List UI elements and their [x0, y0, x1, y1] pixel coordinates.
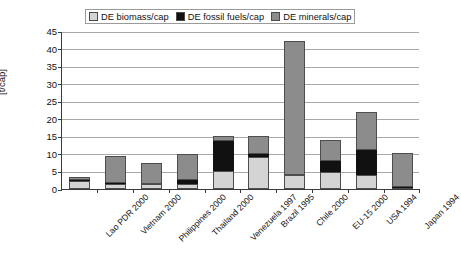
bar-segment-minerals: [213, 136, 234, 141]
y-axis-tick-labels: 051015202530354045: [32, 32, 57, 190]
bar-segment-fossil: [248, 154, 269, 157]
bar-slot: [384, 32, 420, 189]
bar-usa-1994[interactable]: [356, 112, 377, 189]
legend-swatch-minerals: [271, 12, 280, 21]
y-axis-title: [t/cap]: [0, 69, 7, 95]
bar-segment-biomass: [248, 157, 269, 189]
y-axis-tick-label: 5: [52, 167, 57, 177]
bar-japan-1994[interactable]: [392, 153, 413, 189]
y-axis-tick-label: 25: [46, 97, 57, 107]
y-axis-tick-label: 10: [46, 150, 57, 160]
bar-segment-biomass: [177, 184, 198, 189]
bar-segment-minerals: [320, 140, 341, 161]
bar-segment-minerals: [356, 112, 377, 151]
legend-label-fossil-fuels: DE fossil fuels/cap: [188, 12, 264, 22]
y-axis-title-wrap: [t/cap]: [0, 0, 32, 261]
bar-vietnam-2000[interactable]: [105, 156, 126, 189]
bar-segment-minerals: [105, 156, 126, 183]
bar-segment-fossil: [177, 180, 198, 184]
bar-chile-2000[interactable]: [284, 41, 305, 189]
plot-area: [61, 32, 419, 190]
bar-segment-biomass: [213, 171, 234, 189]
bar-philippines-2000[interactable]: [141, 163, 162, 189]
y-axis-tick-label: 45: [46, 27, 57, 37]
y-axis-tick: [58, 190, 62, 191]
legend-item-biomass: DE biomass/cap: [89, 12, 169, 22]
x-axis-tick-label: EU-15 2000: [351, 192, 391, 232]
bar-segment-biomass: [284, 175, 305, 189]
bar-slot: [205, 32, 241, 189]
bar-segment-biomass: [69, 181, 90, 189]
bar-slot: [169, 32, 205, 189]
bar-slot: [313, 32, 349, 189]
x-axis-tick: [419, 189, 420, 193]
legend-label-biomass: DE biomass/cap: [101, 12, 169, 22]
bar-segment-biomass: [141, 184, 162, 189]
legend-label-minerals: DE minerals/cap: [283, 12, 351, 22]
legend-item-minerals: DE minerals/cap: [271, 12, 351, 22]
y-axis-tick-label: 35: [46, 62, 57, 72]
bar-segment-minerals: [248, 136, 269, 154]
bar-eu-15-2000[interactable]: [320, 140, 341, 189]
y-axis-tick-label: 40: [46, 45, 57, 55]
bar-segment-fossil: [320, 161, 341, 172]
legend-swatch-biomass: [89, 12, 98, 21]
bar-slot: [134, 32, 170, 189]
bar-segment-biomass: [320, 172, 341, 189]
bar-segment-biomass: [105, 184, 126, 189]
bar-slot: [62, 32, 98, 189]
bar-brazil-1995[interactable]: [248, 136, 269, 189]
bar-segment-minerals: [177, 154, 198, 180]
bar-slot: [98, 32, 134, 189]
chart-legend: DE biomass/cap DE fossil fuels/cap DE mi…: [85, 9, 355, 24]
bar-lao-pdr-2000[interactable]: [69, 177, 90, 189]
x-axis-tick-labels: Lao PDR 2000Vietnam 2000Philippines 2000…: [61, 192, 419, 261]
legend-item-fossil-fuels: DE fossil fuels/cap: [176, 12, 264, 22]
y-axis-tick-label: 20: [46, 115, 57, 125]
bar-segment-minerals: [284, 41, 305, 175]
bar-segment-biomass: [356, 175, 377, 189]
x-axis-tick-label: USA 1994: [385, 192, 419, 226]
bar-slot: [348, 32, 384, 189]
y-axis-tick-label: 15: [46, 132, 57, 142]
x-axis-tick-label: Chile 2000: [314, 192, 350, 228]
bar-segment-minerals: [141, 163, 162, 184]
bar-venezuela-1997[interactable]: [213, 136, 234, 189]
y-axis-tick-label: 0: [52, 185, 57, 195]
bar-segment-minerals: [392, 153, 413, 187]
bar-thailand-2000[interactable]: [177, 154, 198, 189]
bar-slot: [241, 32, 277, 189]
bar-slot: [277, 32, 313, 189]
legend-swatch-fossil-fuels: [176, 12, 185, 21]
y-axis-tick-label: 30: [46, 80, 57, 90]
bar-segment-fossil: [356, 150, 377, 175]
bar-segment-fossil: [213, 141, 234, 171]
bar-segment-minerals: [69, 177, 90, 180]
x-axis-tick-label: Japan 1994: [422, 192, 461, 231]
